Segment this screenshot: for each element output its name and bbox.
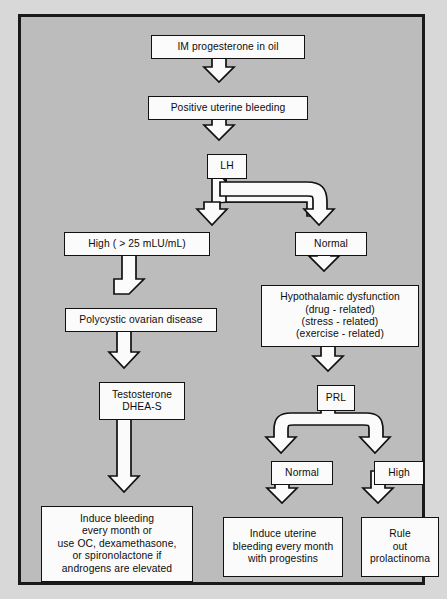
node-label-line-3: (stress - related) (266, 316, 414, 328)
node-label: IM progesterone in oil (156, 41, 300, 53)
node-label-line-2: bleeding every month (228, 541, 338, 553)
node-label: Normal (276, 467, 328, 479)
node-label-line-3: use OC, dexamethasone, (46, 538, 188, 550)
node-label-line-4: (exercise - related) (266, 328, 414, 340)
node-label: Polycystic ovarian disease (70, 314, 212, 326)
node-high-lh[interactable]: High ( > 25 mLU/mL) (64, 232, 210, 256)
node-label-line-4: or spironolactone if (46, 550, 188, 562)
node-label-line-3: with progestins (228, 553, 338, 565)
node-label-line-1: Rule (366, 528, 434, 540)
arrow-lh-right-bend (220, 182, 334, 225)
node-label-line-2: DHEA-S (104, 401, 180, 413)
node-label-line-2: out (366, 541, 434, 553)
node-label: High ( > 25 mLU/mL) (69, 238, 205, 250)
node-prl[interactable]: PRL (317, 385, 355, 411)
arrow-lh-split-left-head (197, 202, 227, 225)
node-label: LH (212, 160, 242, 172)
node-induce-bleeding-regimen[interactable]: Induce bleeding every month or use OC, d… (41, 506, 193, 582)
node-induce-uterine-bleeding[interactable]: Induce uterine bleeding every month with… (223, 517, 343, 577)
node-label-line-1: Induce bleeding (46, 513, 188, 525)
node-label-line-1: Induce uterine (228, 528, 338, 540)
node-label-line-2: every month or (46, 525, 188, 537)
node-label: Positive uterine bleeding (153, 102, 303, 114)
node-label: Normal (300, 238, 362, 250)
flowchart-frame: IM progesterone in oil Positive uterine … (18, 14, 425, 585)
node-label-line-1: Hypothalamic dysfunction (266, 291, 414, 303)
node-polycystic-ovarian-disease[interactable]: Polycystic ovarian disease (65, 308, 217, 332)
node-high-prl[interactable]: High (374, 461, 424, 485)
node-positive-uterine-bleeding[interactable]: Positive uterine bleeding (148, 96, 308, 120)
node-im-progesterone[interactable]: IM progesterone in oil (151, 35, 305, 59)
node-normal-lh[interactable]: Normal (295, 232, 367, 256)
node-normal-prl[interactable]: Normal (271, 461, 333, 485)
node-label-line-2: (drug - related) (266, 304, 414, 316)
node-lh[interactable]: LH (207, 154, 247, 179)
node-label-line-3: prolactinoma (366, 553, 434, 565)
node-label: High (379, 467, 419, 479)
node-label-line-5: androgens are elevated (46, 563, 188, 575)
node-hypothalamic-dysfunction[interactable]: Hypothalamic dysfunction (drug - related… (261, 285, 419, 347)
node-label: PRL (322, 392, 350, 404)
node-label-line-1: Testosterone (104, 389, 180, 401)
node-rule-out-prolactinoma[interactable]: Rule out prolactinoma (361, 517, 439, 577)
node-testosterone-dheas[interactable]: Testosterone DHEA-S (99, 382, 185, 420)
